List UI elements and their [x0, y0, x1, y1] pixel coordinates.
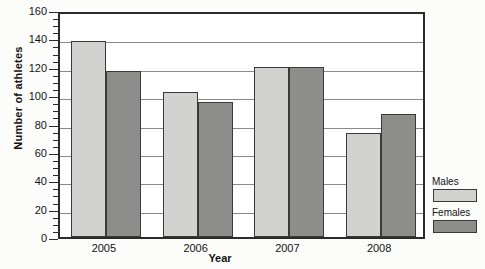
y-axis-tick-label: 20	[35, 205, 47, 216]
y-axis-tick	[49, 239, 58, 240]
bar-females-2005	[106, 71, 141, 237]
bar-males-2005	[71, 41, 106, 237]
bar-females-2007	[289, 67, 324, 237]
y-axis: 020406080100120140160	[0, 12, 58, 239]
y-axis-tick-label: 0	[41, 233, 47, 244]
bar-males-2007	[254, 67, 289, 237]
y-axis-tick	[49, 126, 58, 127]
y-axis-tick	[49, 40, 58, 41]
y-axis-tick	[49, 12, 58, 13]
y-axis-tick-label: 120	[29, 63, 47, 74]
bar-males-2006	[163, 92, 198, 237]
legend-swatch-females	[433, 220, 477, 233]
bar-males-2008	[346, 133, 381, 237]
y-axis-tick-label: 100	[29, 91, 47, 102]
y-axis-tick	[49, 154, 58, 155]
legend-label-females: Females	[432, 207, 485, 219]
x-axis-tick-label: 2005	[76, 242, 132, 254]
bar-females-2006	[198, 102, 233, 237]
y-axis-tick-label: 40	[35, 176, 47, 187]
plot-area	[58, 12, 425, 239]
gridline	[60, 42, 423, 43]
chart-legend: Males Females	[432, 176, 485, 238]
bar-females-2008	[381, 114, 416, 237]
y-axis-tick	[49, 182, 58, 183]
chart-figure: Number of athletes 020406080100120140160…	[0, 0, 485, 269]
y-axis-tick	[49, 69, 58, 70]
legend-swatch-males	[433, 189, 477, 202]
y-axis-tick	[49, 211, 58, 212]
x-axis-tick-label: 2007	[259, 242, 315, 254]
x-axis-tick-label: 2006	[168, 242, 224, 254]
y-axis-tick	[49, 97, 58, 98]
y-axis-tick-label: 60	[35, 148, 47, 159]
legend-label-males: Males	[432, 176, 485, 188]
y-axis-tick-label: 160	[29, 6, 47, 17]
y-axis-tick-label: 80	[35, 120, 47, 131]
y-axis-tick-label: 140	[29, 34, 47, 45]
x-axis-tick-label: 2008	[351, 242, 407, 254]
